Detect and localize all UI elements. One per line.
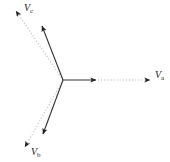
phasor-label-vc: Vc — [24, 3, 33, 13]
phasor-vb-solid-line — [43, 80, 63, 134]
phasor-vc-solid-line — [42, 26, 63, 80]
phasor-label-vc-subscript: c — [30, 7, 33, 15]
phasor-vector-canvas — [0, 0, 170, 162]
phasor-label-va: Va — [155, 70, 164, 80]
phasor-vc-dotted-line — [16, 11, 63, 80]
phasor-label-vb: Vb — [31, 147, 41, 157]
phasor-diagram: Va Vb Vc — [0, 0, 170, 162]
phasor-vb-dotted-line — [25, 80, 63, 147]
phasor-vc — [16, 11, 63, 80]
phasor-label-vb-subscript: b — [37, 151, 41, 159]
phasor-vb — [25, 80, 63, 147]
phasor-label-va-subscript: a — [161, 74, 164, 82]
